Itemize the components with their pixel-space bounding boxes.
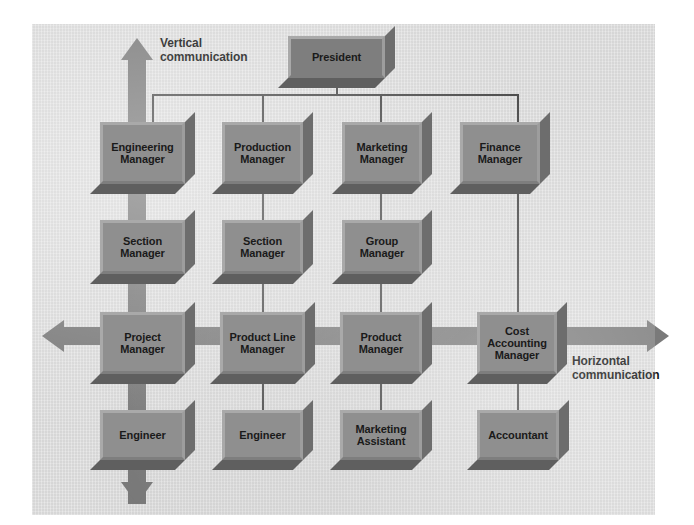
node-label: President bbox=[310, 51, 363, 63]
node-label: Product Manager bbox=[357, 331, 406, 356]
node-section-manager-engineering[interactable]: Section Manager bbox=[100, 220, 185, 274]
node-face: Engineer bbox=[100, 410, 185, 460]
node-label: Marketing Manager bbox=[354, 141, 409, 166]
node-label: Production Manager bbox=[232, 141, 293, 166]
node-section-manager-production[interactable]: Section Manager bbox=[222, 220, 303, 274]
node-side-right bbox=[303, 210, 313, 274]
node-side-bottom bbox=[90, 274, 185, 284]
node-face: Cost Accounting Manager bbox=[477, 312, 557, 374]
node-side-right bbox=[303, 400, 313, 460]
vertical-communication-arrow-head-up bbox=[121, 38, 153, 60]
node-face: Engineer bbox=[222, 410, 303, 460]
node-side-right bbox=[557, 302, 567, 374]
node-side-right bbox=[303, 112, 313, 184]
node-engineer-1[interactable]: Engineer bbox=[100, 410, 185, 460]
node-label: Engineering Manager bbox=[109, 141, 175, 166]
node-side-bottom bbox=[332, 184, 422, 194]
node-label: Cost Accounting Manager bbox=[485, 325, 549, 362]
node-face: Marketing Manager bbox=[342, 122, 422, 184]
node-project-manager[interactable]: Project Manager bbox=[100, 312, 185, 374]
node-cost-accounting-manager[interactable]: Cost Accounting Manager bbox=[477, 312, 557, 374]
node-label: Project Manager bbox=[118, 331, 167, 356]
node-side-right bbox=[422, 302, 432, 374]
node-side-bottom bbox=[467, 460, 559, 470]
node-engineer-2[interactable]: Engineer bbox=[222, 410, 303, 460]
node-face: Production Manager bbox=[222, 122, 303, 184]
node-side-bottom bbox=[210, 374, 305, 384]
node-side-right bbox=[185, 112, 195, 184]
node-face: Product Manager bbox=[340, 312, 422, 374]
node-side-right bbox=[185, 210, 195, 274]
node-face: Engineering Manager bbox=[100, 122, 185, 184]
org-chart-diagram: President Engineering Manager Production… bbox=[32, 24, 655, 515]
node-side-bottom bbox=[212, 274, 303, 284]
node-side-bottom bbox=[278, 78, 385, 88]
node-label: Finance Manager bbox=[476, 141, 525, 166]
node-label: Section Manager bbox=[118, 235, 167, 260]
node-engineering-manager[interactable]: Engineering Manager bbox=[100, 122, 185, 184]
node-label: Engineer bbox=[237, 429, 287, 441]
node-side-right bbox=[422, 112, 432, 184]
node-side-right bbox=[540, 112, 550, 184]
node-side-right bbox=[385, 26, 395, 78]
node-side-bottom bbox=[90, 460, 185, 470]
node-side-right bbox=[305, 302, 315, 374]
node-face: Project Manager bbox=[100, 312, 185, 374]
node-side-bottom bbox=[212, 460, 303, 470]
connector-bus-drop-col3 bbox=[380, 94, 382, 122]
node-side-bottom bbox=[90, 184, 185, 194]
node-side-right bbox=[185, 400, 195, 460]
node-accountant[interactable]: Accountant bbox=[477, 410, 559, 460]
horizontal-communication-caption: Horizontal communication bbox=[572, 354, 659, 383]
connector-bus-drop-col1 bbox=[152, 94, 154, 122]
node-label: Marketing Assistant bbox=[353, 423, 408, 448]
node-face: Section Manager bbox=[222, 220, 303, 274]
node-marketing-manager[interactable]: Marketing Manager bbox=[342, 122, 422, 184]
vertical-communication-arrow-head-down bbox=[121, 482, 153, 504]
node-side-bottom bbox=[330, 374, 422, 384]
node-product-line-manager[interactable]: Product Line Manager bbox=[220, 312, 305, 374]
node-side-right bbox=[422, 210, 432, 274]
node-finance-manager[interactable]: Finance Manager bbox=[460, 122, 540, 184]
node-face: Product Line Manager bbox=[220, 312, 305, 374]
connector-bus-drop-col4 bbox=[517, 94, 519, 122]
horizontal-communication-arrow-head-left bbox=[42, 320, 64, 352]
node-side-bottom bbox=[450, 184, 540, 194]
node-side-bottom bbox=[330, 460, 422, 470]
node-face: Marketing Assistant bbox=[340, 410, 422, 460]
node-label: Group Manager bbox=[358, 235, 407, 260]
node-label: Accountant bbox=[486, 429, 550, 441]
node-side-right bbox=[422, 400, 432, 460]
node-side-bottom bbox=[332, 274, 422, 284]
connector-col4-r2-r4 bbox=[517, 184, 519, 312]
vertical-communication-caption: Vertical communication bbox=[160, 36, 247, 65]
node-label: Engineer bbox=[117, 429, 167, 441]
node-label: Product Line Manager bbox=[227, 331, 297, 356]
node-face: Finance Manager bbox=[460, 122, 540, 184]
node-side-bottom bbox=[212, 184, 303, 194]
node-production-manager[interactable]: Production Manager bbox=[222, 122, 303, 184]
node-face: Group Manager bbox=[342, 220, 422, 274]
node-president[interactable]: President bbox=[288, 36, 385, 78]
node-side-right bbox=[559, 400, 569, 460]
connector-bus-drop-col2 bbox=[262, 94, 264, 122]
node-product-manager[interactable]: Product Manager bbox=[340, 312, 422, 374]
horizontal-communication-arrow-head-right bbox=[647, 320, 669, 352]
node-marketing-assistant[interactable]: Marketing Assistant bbox=[340, 410, 422, 460]
connector-executive-bus bbox=[152, 94, 518, 96]
node-face: President bbox=[288, 36, 385, 78]
node-label: Section Manager bbox=[238, 235, 287, 260]
node-group-manager-marketing[interactable]: Group Manager bbox=[342, 220, 422, 274]
node-side-bottom bbox=[90, 374, 185, 384]
node-side-right bbox=[185, 302, 195, 374]
node-face: Section Manager bbox=[100, 220, 185, 274]
node-side-bottom bbox=[467, 374, 557, 384]
node-face: Accountant bbox=[477, 410, 559, 460]
